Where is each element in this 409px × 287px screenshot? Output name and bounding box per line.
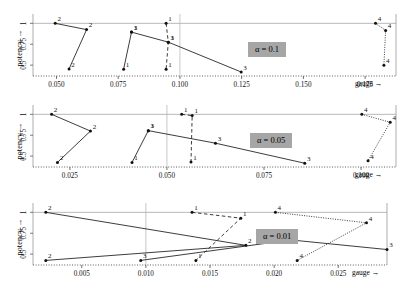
data-point-label: 4: [369, 215, 373, 223]
chart-panel-alpha-0-05: potency → 0.50.7510.0250.0500.0750.10022…: [0, 95, 409, 187]
x-axis-label: gauge →: [352, 268, 379, 277]
data-point-marker: [44, 211, 47, 214]
data-point-label: 2: [54, 106, 58, 114]
plot-area-alpha-0-05: 0.50.7510.0250.0500.0750.100222113331114…: [0, 95, 409, 187]
alpha-label-badge: α = 0.01: [256, 229, 298, 244]
data-point-marker: [194, 259, 197, 262]
data-point-marker: [85, 28, 88, 31]
data-point-marker: [389, 121, 392, 124]
data-point-marker: [147, 129, 150, 132]
data-point-label: 1: [168, 61, 172, 69]
y-tick-label: 0.75: [20, 129, 28, 142]
alpha-label-badge: α = 0.05: [250, 133, 292, 148]
data-point-label: 1: [184, 106, 188, 114]
data-point-marker: [274, 211, 277, 214]
figure-panel-stack: potency → 0.50.7510.0500.0750.1000.1250.…: [0, 0, 409, 287]
data-point-label: 2: [89, 21, 93, 29]
data-point-label: 3: [151, 122, 155, 130]
data-point-label: 4: [370, 153, 374, 161]
data-point-marker: [54, 22, 57, 25]
data-point-label: 4: [278, 204, 282, 212]
data-point-label: 3: [389, 241, 393, 249]
data-series-line: [52, 114, 91, 162]
data-point-label: 1: [126, 61, 130, 69]
x-tick-label: 0.150: [295, 81, 312, 89]
data-point-label: 2: [60, 154, 64, 162]
data-point-label: 3: [134, 24, 138, 32]
data-point-label: 4: [299, 252, 303, 260]
x-axis-label: gauge →: [355, 79, 382, 88]
data-point-marker: [365, 221, 368, 224]
data-point-label: 3: [143, 252, 147, 260]
x-tick-label: 0.075: [110, 81, 127, 89]
data-point-marker: [131, 161, 134, 164]
data-point-marker: [360, 113, 363, 116]
data-point-marker: [240, 70, 243, 73]
data-point-label: 2: [71, 61, 75, 69]
y-tick-label: 1: [20, 112, 28, 116]
data-point-marker: [180, 113, 183, 116]
data-point-label: 3: [243, 64, 247, 72]
data-series-line: [362, 114, 390, 160]
data-point-label: 2: [48, 252, 52, 260]
data-point-marker: [130, 31, 133, 34]
data-point-marker: [68, 67, 71, 70]
data-series-line: [132, 32, 242, 72]
data-point-marker: [122, 68, 125, 71]
data-point-label: 4: [378, 15, 382, 23]
data-point-label: 4: [364, 106, 368, 114]
x-tick-label: 0.010: [138, 270, 155, 278]
data-point-label: 1: [168, 15, 172, 23]
data-point-label: 1: [171, 34, 175, 42]
data-point-marker: [296, 259, 299, 262]
data-point-label: 3: [307, 155, 311, 163]
data-point-marker: [367, 159, 370, 162]
data-point-label: 3: [218, 135, 222, 143]
data-point-marker: [382, 64, 385, 67]
data-point-label: 4: [392, 114, 396, 122]
x-tick-label: 0.050: [48, 81, 65, 89]
y-tick-label: 1: [20, 210, 28, 214]
data-point-marker: [303, 162, 306, 165]
data-point-marker: [190, 160, 193, 163]
y-tick-label: 1: [20, 21, 28, 25]
data-point-marker: [384, 29, 387, 32]
data-point-marker: [165, 22, 168, 25]
plot-area-alpha-0-01: 0.50.7510.0050.0100.0150.0200.0252223331…: [0, 187, 409, 287]
data-point-label: 1: [198, 252, 202, 260]
x-tick-label: 0.025: [330, 270, 347, 278]
plot-area-alpha-0-1: 0.50.7510.0500.0750.1000.1250.1500.17522…: [0, 0, 409, 95]
data-point-marker: [214, 142, 217, 145]
data-point-marker: [386, 248, 389, 251]
data-point-label: 1: [194, 204, 198, 212]
x-tick-label: 0.125: [234, 81, 251, 89]
data-point-marker: [44, 259, 47, 262]
data-point-marker: [50, 113, 53, 116]
data-point-label: 2: [248, 237, 252, 245]
x-tick-label: 0.015: [202, 270, 219, 278]
data-point-label: 4: [386, 57, 390, 65]
x-tick-label: 0.005: [74, 270, 91, 278]
chart-panel-alpha-0-1: potency → 0.50.7510.0500.0750.1000.1250.…: [0, 0, 409, 95]
data-point-label: 2: [48, 204, 52, 212]
x-tick-label: 0.025: [62, 172, 79, 180]
data-point-label: 1: [134, 154, 138, 162]
alpha-label-badge: α = 0.1: [248, 42, 286, 57]
data-point-label: 1: [243, 210, 247, 218]
data-point-marker: [56, 161, 59, 164]
data-point-marker: [191, 211, 194, 214]
y-tick-label: 0.75: [20, 227, 28, 240]
data-point-label: 2: [57, 15, 61, 23]
x-tick-label: 0.075: [256, 172, 273, 180]
data-point-marker: [89, 130, 92, 133]
y-tick-label: 0.5: [20, 249, 28, 258]
data-point-label: 1: [194, 107, 198, 115]
x-tick-label: 0.020: [266, 270, 283, 278]
chart-panel-alpha-0-01: potency → 0.50.7510.0050.0100.0150.0200.…: [0, 187, 409, 287]
data-point-marker: [191, 114, 194, 117]
data-series-line: [376, 23, 386, 65]
data-point-marker: [167, 41, 170, 44]
data-point-marker: [165, 68, 168, 71]
y-tick-label: 0.75: [20, 38, 28, 51]
data-point-marker: [139, 259, 142, 262]
